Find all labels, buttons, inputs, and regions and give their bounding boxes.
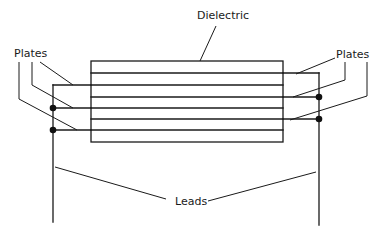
- left-junction-dot: [50, 127, 57, 134]
- leads-label: Leads: [175, 196, 207, 207]
- dielectric-stack: [91, 61, 283, 142]
- dielectric-leader: [200, 26, 216, 61]
- left-plates-leader-3: [19, 62, 77, 130]
- right-junction-dot: [316, 94, 323, 101]
- left-plates-leader-1: [40, 62, 73, 85]
- right-plates: [283, 73, 322, 225]
- right-plates-leader-1: [296, 58, 335, 74]
- leads-leader-left: [55, 167, 166, 199]
- leader-lines: [19, 26, 367, 201]
- capacitor-diagram: Dielectric Plates Plates Leads: [0, 0, 385, 234]
- left-plates: [50, 85, 91, 222]
- left-junction-dot: [50, 105, 57, 112]
- plates-left-label: Plates: [14, 48, 47, 59]
- plates-right-label: Plates: [336, 49, 369, 60]
- right-plates-leader-3: [290, 62, 367, 120]
- dielectric-label: Dielectric: [197, 10, 249, 21]
- leads-leader-right: [208, 172, 316, 201]
- right-junction-dot: [316, 116, 323, 123]
